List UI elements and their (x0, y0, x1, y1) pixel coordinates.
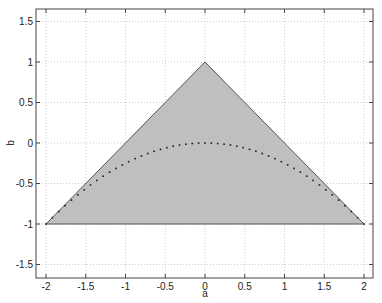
curve-dot (300, 171, 302, 173)
y-tick-label: -1 (24, 219, 33, 230)
curve-dot (338, 199, 340, 201)
curve-dot (153, 150, 155, 152)
y-tick-label: 0.5 (19, 97, 33, 108)
curve-dot (172, 145, 174, 147)
curve-dot (344, 205, 346, 207)
curve-dot (319, 184, 321, 186)
curve-dot (325, 189, 327, 191)
x-tick-label: 0.5 (238, 281, 252, 292)
curve-dot (96, 180, 98, 182)
y-axis-label: b (5, 140, 16, 146)
curve-dot (236, 145, 238, 147)
y-tick-label: 1 (27, 57, 33, 68)
y-tick-labels: -1.5-1-0.500.511.5 (16, 16, 34, 270)
x-axis-label: a (202, 288, 208, 299)
curve-dot (71, 199, 73, 201)
curve-dot (312, 180, 314, 182)
x-tick-label: 1.5 (317, 281, 331, 292)
curve-dot (242, 147, 244, 149)
curve-dot (147, 153, 149, 155)
y-tick-label: -1.5 (16, 259, 34, 270)
x-tick-label: -1.5 (77, 281, 95, 292)
curve-dot (128, 161, 130, 163)
curve-dot (255, 150, 257, 152)
curve-dot (191, 143, 193, 145)
curve-dot (211, 142, 213, 144)
curve-dot (306, 175, 308, 177)
curve-dot (77, 194, 79, 196)
curve-dot (287, 164, 289, 166)
curve-dot (223, 143, 225, 145)
x-tick-label: 1 (282, 281, 288, 292)
curve-dot (109, 171, 111, 173)
x-tick-label: 2 (361, 281, 367, 292)
curve-dot (179, 144, 181, 146)
chart-figure: -2-1.5-1-0.500.511.52 -1.5-1-0.500.511.5… (0, 0, 382, 303)
curve-dot (249, 149, 251, 151)
curve-dot (261, 153, 263, 155)
curve-dot (185, 143, 187, 145)
curve-dot (274, 158, 276, 160)
curve-dot (357, 217, 359, 219)
x-tick-label: -0.5 (157, 281, 175, 292)
curve-dot (52, 217, 54, 219)
curve-dot (83, 189, 85, 191)
curve-dot (64, 205, 66, 207)
curve-dot (230, 144, 232, 146)
curve-dot (102, 175, 104, 177)
curve-dot (115, 168, 117, 170)
x-tick-label: -2 (42, 281, 51, 292)
curve-dot (90, 184, 92, 186)
curve-dot (122, 164, 124, 166)
curve-dot (281, 161, 283, 163)
curve-dot (350, 211, 352, 213)
curve-dot (58, 211, 60, 213)
curve-dot (160, 149, 162, 151)
curve-dot (198, 142, 200, 144)
curve-dot (331, 194, 333, 196)
curve-dot (134, 158, 136, 160)
curve-dot (268, 155, 270, 157)
curve-dot (217, 143, 219, 145)
y-tick-label: 1.5 (19, 16, 33, 27)
curve-dot (166, 147, 168, 149)
y-tick-label: 0 (27, 138, 33, 149)
curve-dot (45, 223, 47, 225)
y-tick-label: -0.5 (16, 178, 34, 189)
curve-dot (141, 155, 143, 157)
x-tick-label: -1 (121, 281, 130, 292)
curve-dot (293, 168, 295, 170)
curve-dot (204, 142, 206, 144)
curve-dot (363, 223, 365, 225)
